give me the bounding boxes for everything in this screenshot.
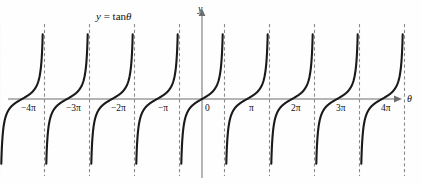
x-axis-label: θ [407, 94, 412, 104]
x-tick-label: π [249, 104, 254, 114]
function-title-label: y = tanθ [96, 11, 131, 22]
x-tick-label: −2π [111, 104, 126, 114]
x-tick-label: 3π [336, 104, 346, 114]
x-tick-label: −3π [66, 104, 81, 114]
x-tick-label: 2π [291, 104, 301, 114]
y-axis [199, 9, 206, 179]
x-tick-label: 4π [381, 104, 391, 114]
x-tick-label: −4π [21, 104, 36, 114]
x-tick-label: −π [158, 104, 168, 114]
tangent-function-figure: y = tanθ y θ −4π−3π−2π−π0π2π3π4π [0, 0, 422, 184]
x-tick-label: 0 [205, 104, 210, 114]
y-axis-label: y [198, 4, 202, 14]
tangent-plot-svg [0, 0, 422, 184]
